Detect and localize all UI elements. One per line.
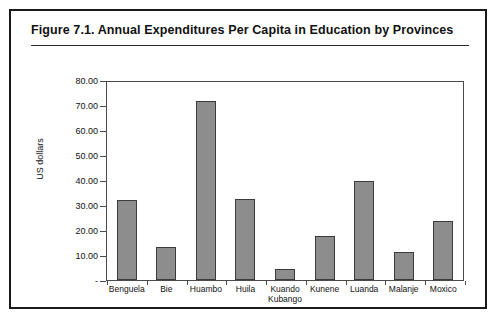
y-axis-tick-label: 80.00 (58, 77, 98, 86)
y-axis-tick-label: 60.00 (58, 127, 98, 136)
y-axis-tick-mark (100, 81, 106, 82)
bar[interactable] (394, 252, 414, 280)
bar[interactable] (235, 199, 255, 281)
y-axis-tick-label: 70.00 (58, 102, 98, 111)
x-axis-tick-label: Malanje (384, 285, 424, 295)
x-axis-tick-mark (107, 281, 108, 285)
x-axis-tick-label: KuandoKubango (265, 285, 305, 305)
x-axis-tick-label: Bie (147, 285, 187, 295)
bar[interactable] (354, 181, 374, 280)
x-axis-tick-label: Luanda (344, 285, 384, 295)
x-axis-tick-label-line: Malanje (384, 285, 424, 295)
y-axis-title: US dollars (35, 114, 45, 204)
x-axis-tick-label-line: Kubango (265, 295, 305, 305)
x-axis-tick-label-line: Huila (226, 285, 266, 295)
x-axis-tick-mark (306, 281, 307, 285)
y-axis-tick-label: 50.00 (58, 152, 98, 161)
y-axis-tick-label: - (58, 277, 98, 286)
x-axis-tick-label-line: Bie (147, 285, 187, 295)
y-axis-tick-mark (100, 206, 106, 207)
bar[interactable] (156, 247, 176, 280)
y-axis-tick-mark (100, 281, 106, 282)
bar-slot (265, 81, 305, 280)
y-axis-tick-label: 10.00 (58, 252, 98, 261)
x-axis-tick-mark (425, 281, 426, 285)
bar-slot (384, 81, 424, 280)
x-axis-tick-mark (147, 281, 148, 285)
y-axis-tick-mark (100, 256, 106, 257)
x-axis-tick-label: Moxico (424, 285, 464, 295)
x-axis-tick-mark (226, 281, 227, 285)
y-axis-tick-mark (100, 106, 106, 107)
x-axis-tick-mark (465, 281, 466, 285)
y-axis-tick-label: 20.00 (58, 227, 98, 236)
y-axis-tick-mark (100, 156, 106, 157)
x-axis-tick-mark (385, 281, 386, 285)
bar-slot (424, 81, 464, 280)
y-axis-tick-label: 40.00 (58, 177, 98, 186)
bar-slot (147, 81, 187, 280)
bar[interactable] (117, 200, 137, 281)
bar-slot (107, 81, 147, 280)
x-axis-tick-labels: BenguelaBieHuamboHuilaKuandoKubangoKunen… (107, 285, 463, 305)
y-axis-tick-mark (100, 181, 106, 182)
bar[interactable] (433, 221, 453, 280)
x-axis-tick-label-line: Kunene (305, 285, 345, 295)
bar-series (107, 81, 463, 280)
bar[interactable] (275, 269, 295, 281)
y-axis-tick-mark (100, 131, 106, 132)
x-axis-tick-label: Huambo (186, 285, 226, 295)
figure-container: Figure 7.1. Annual Expenditures Per Capi… (9, 9, 487, 309)
bar-slot (186, 81, 226, 280)
bar-slot (344, 81, 384, 280)
y-axis-tick-label: 30.00 (58, 202, 98, 211)
x-axis-tick-label-line: Huambo (186, 285, 226, 295)
x-axis-tick-label: Benguela (107, 285, 147, 295)
x-axis-tick-mark (346, 281, 347, 285)
x-axis-tick-mark (187, 281, 188, 285)
x-axis-tick-label: Kunene (305, 285, 345, 295)
bar-slot (226, 81, 266, 280)
bar[interactable] (196, 101, 216, 281)
x-axis-tick-label-line: Benguela (107, 285, 147, 295)
y-axis-tick-mark (100, 231, 106, 232)
x-axis-tick-label-line: Luanda (344, 285, 384, 295)
x-axis-tick-label-line: Moxico (424, 285, 464, 295)
y-axis-tick-labels: 80.0070.0060.0050.0040.0030.0020.0010.00… (56, 11, 98, 325)
bar[interactable] (315, 236, 335, 280)
x-axis-tick-mark (266, 281, 267, 285)
bar-slot (305, 81, 345, 280)
x-axis-tick-label: Huila (226, 285, 266, 295)
